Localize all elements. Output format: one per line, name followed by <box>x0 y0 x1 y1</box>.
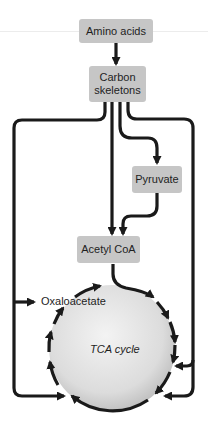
pathway-diagram <box>0 0 208 424</box>
node-carbon-skeletons: Carbon skeletons <box>89 66 146 102</box>
node-carbon-skeletons-line2: skeletons <box>94 84 140 97</box>
arrow-carbon-to-pyruvate <box>120 102 157 163</box>
node-tca-cycle: TCA cycle <box>90 343 140 355</box>
node-oxaloacetate: Oxaloacetate <box>41 295 106 307</box>
node-amino-acids: Amino acids <box>79 19 153 43</box>
node-pyruvate-label: Pyruvate <box>135 173 178 186</box>
node-acetyl-coa: Acetyl CoA <box>77 236 140 263</box>
node-acetyl-coa-label: Acetyl CoA <box>81 243 135 256</box>
node-carbon-skeletons-line1: Carbon <box>99 71 135 84</box>
arrow-pyruvate-to-acetyl-coa <box>123 193 157 234</box>
node-pyruvate: Pyruvate <box>132 166 182 193</box>
node-amino-acids-label: Amino acids <box>86 25 146 38</box>
